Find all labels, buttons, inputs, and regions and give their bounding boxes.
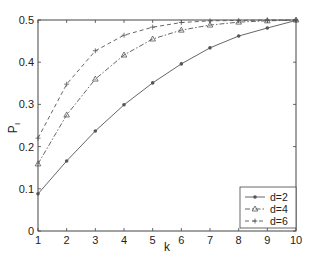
x-tick-label: 10	[290, 234, 302, 246]
y-tick-label: 0.4	[19, 56, 34, 68]
legend-label: d=4	[270, 203, 288, 215]
x-tick-label: 2	[64, 234, 70, 246]
x-tick-label: 9	[264, 234, 270, 246]
legend: d=2d=4d=6	[240, 187, 296, 228]
x-tick-label: 1	[35, 234, 41, 246]
y-tick-label: 0.2	[19, 141, 34, 153]
y-tick-label: 0	[28, 225, 34, 237]
x-axis-label: k	[164, 240, 171, 254]
line-chart: 12345678910 00.10.20.30.40.5 k PI d=2d=4…	[0, 0, 315, 262]
x-tick-label: 7	[207, 234, 213, 246]
y-tick-label: 0.5	[19, 14, 34, 26]
legend-label: d=6	[270, 215, 288, 227]
series-d-2	[36, 19, 298, 196]
x-tick-label: 8	[236, 234, 242, 246]
x-tick-label: 5	[150, 234, 156, 246]
x-tick-label: 3	[92, 234, 98, 246]
series-d-6	[36, 18, 299, 141]
series-d-4	[35, 17, 299, 166]
y-axis-label-sub: I	[13, 123, 22, 125]
y-axis-label: PI	[6, 123, 22, 133]
y-tick-label: 0.1	[19, 183, 34, 195]
x-tick-label: 4	[121, 234, 127, 246]
y-axis-label-main: P	[6, 125, 20, 133]
legend-label: d=2	[270, 191, 288, 203]
x-tick-label: 6	[178, 234, 184, 246]
y-tick-label: 0.3	[19, 98, 34, 110]
svg-text:PI: PI	[6, 123, 22, 133]
series-layer	[35, 17, 299, 196]
